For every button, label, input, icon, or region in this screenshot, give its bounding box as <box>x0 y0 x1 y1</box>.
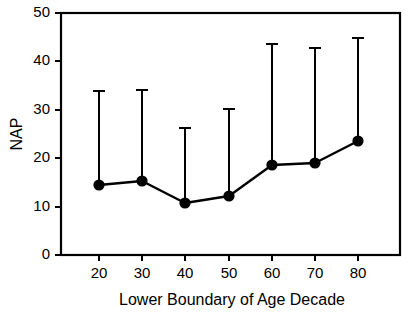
nap-vs-age-line-chart: 50 40 30 20 10 0 20 30 40 50 60 70 80 <box>0 0 414 313</box>
error-bar-20 <box>93 91 105 185</box>
chart-container: 50 40 30 20 10 0 20 30 40 50 60 70 80 <box>0 0 414 313</box>
x-tick-label-40: 40 <box>177 264 194 281</box>
error-bars <box>93 38 364 203</box>
x-tick-label-50: 50 <box>221 264 238 281</box>
data-point-80 <box>352 135 363 146</box>
y-axis-tick-labels: 50 40 30 20 10 0 <box>33 3 50 262</box>
error-bar-70 <box>309 48 321 163</box>
data-point-60 <box>266 159 277 170</box>
axes-frame <box>61 13 400 255</box>
x-tick-label-30: 30 <box>134 264 151 281</box>
x-axis-title: Lower Boundary of Age Decade <box>119 291 345 308</box>
y-tick-label-0: 0 <box>42 245 50 262</box>
x-tick-label-60: 60 <box>264 264 281 281</box>
data-point-20 <box>93 179 104 190</box>
error-bar-50 <box>223 109 235 196</box>
x-tick-label-70: 70 <box>307 264 324 281</box>
data-point-50 <box>223 190 234 201</box>
y-tick-label-50: 50 <box>33 3 50 20</box>
y-axis-title: NAP <box>8 118 25 151</box>
data-point-70 <box>309 157 320 168</box>
y-tick-label-10: 10 <box>33 197 50 214</box>
plot-frame <box>61 13 400 255</box>
y-tick-label-30: 30 <box>33 100 50 117</box>
y-tick-label-40: 40 <box>33 51 50 68</box>
error-bar-40 <box>179 128 191 203</box>
x-tick-label-20: 20 <box>91 264 108 281</box>
data-point-40 <box>179 197 190 208</box>
data-point-30 <box>136 175 147 186</box>
error-bar-60 <box>266 44 278 165</box>
x-axis-tick-labels: 20 30 40 50 60 70 80 <box>91 264 367 281</box>
y-tick-label-20: 20 <box>33 148 50 165</box>
x-tick-label-80: 80 <box>350 264 367 281</box>
error-bar-80 <box>352 38 364 141</box>
error-bar-30 <box>136 90 148 181</box>
